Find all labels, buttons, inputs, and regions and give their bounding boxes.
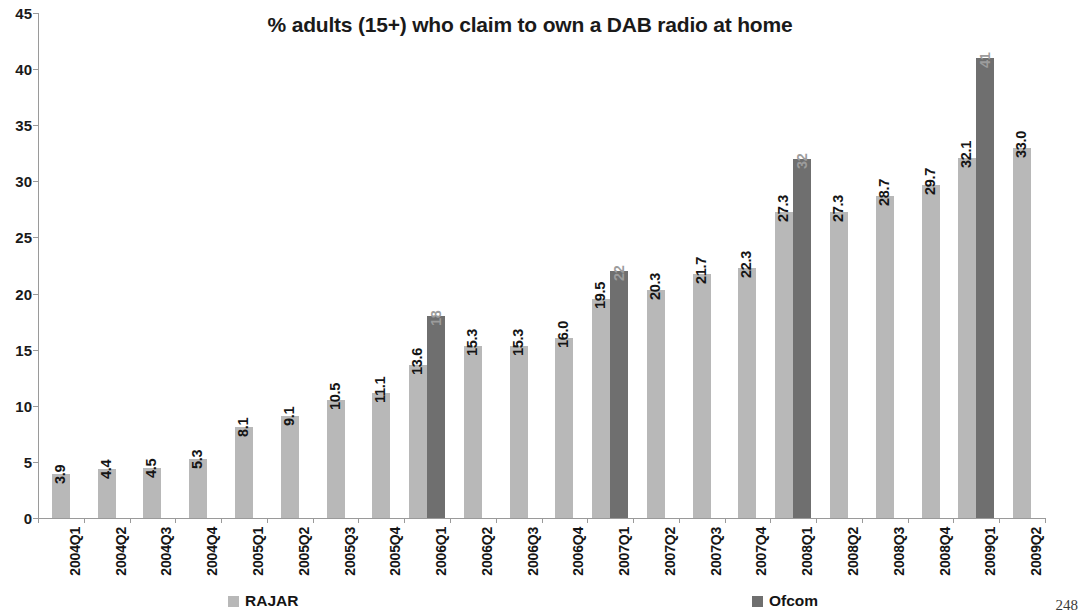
y-axis-tick [33,69,38,70]
y-axis-tick-label: 0 [2,510,32,527]
bar-value-label-rajar: 29.7 [922,168,938,195]
x-axis-category-label: 2006Q4 [570,527,586,576]
x-axis-tick [450,518,451,523]
bar-rajar[interactable] [693,274,711,518]
bar-rajar[interactable] [327,400,345,518]
bar-value-label-rajar: 10.5 [327,383,343,410]
x-axis-tick [1045,518,1046,523]
bar-value-label-rajar: 19.5 [592,282,608,309]
bar-value-label-rajar: 3.9 [52,465,68,484]
legend-swatch-rajar [228,596,239,607]
x-axis-category-label: 2007Q3 [708,527,724,576]
x-axis-tick [358,518,359,523]
x-axis-tick [999,518,1000,523]
x-axis-tick [496,518,497,523]
bar-rajar[interactable] [775,212,793,518]
y-axis-tick [33,462,38,463]
chart-container: % adults (15+) who claim to own a DAB ra… [0,0,1084,616]
x-axis-category-label: 2005Q2 [296,527,312,576]
bar-value-label-rajar: 22.3 [738,251,754,278]
x-axis-category-label: 2006Q2 [479,527,495,576]
bar-rajar[interactable] [876,196,894,518]
bar-value-label-rajar: 5.3 [189,449,205,468]
x-axis-tick [38,518,39,523]
legend-item-rajar[interactable]: RAJAR [228,592,298,610]
x-axis-tick [221,518,222,523]
legend: RAJAR Ofcom [0,592,1060,612]
bar-value-label-rajar: 15.3 [464,329,480,356]
bar-value-label-ofcom: 32 [794,153,810,169]
plot-area: 3.94.44.55.38.19.110.511.113.61815.315.3… [38,13,1045,518]
bar-value-label-rajar: 13.6 [409,348,425,375]
x-axis-tick [175,518,176,523]
y-axis-tick [33,294,38,295]
y-axis-tick-label: 15 [2,341,32,358]
bar-rajar[interactable] [372,393,390,518]
y-axis-tick [33,350,38,351]
bar-rajar[interactable] [409,365,427,518]
legend-label-rajar: RAJAR [245,592,298,610]
x-axis-category-label: 2008Q2 [845,527,861,576]
bar-rajar[interactable] [647,290,665,518]
legend-item-ofcom[interactable]: Ofcom [752,592,818,610]
x-axis-category-label: 2007Q1 [616,527,632,576]
bar-value-label-ofcom: 22 [611,266,627,282]
bar-ofcom[interactable] [976,58,994,518]
x-axis-tick [84,518,85,523]
bar-value-label-rajar: 15.3 [510,329,526,356]
x-axis-category-label: 2007Q4 [753,527,769,576]
x-axis-category-label: 2004Q2 [113,527,129,576]
legend-label-ofcom: Ofcom [769,592,818,610]
bar-ofcom[interactable] [793,159,811,518]
x-axis-category-label: 2006Q1 [433,527,449,576]
x-axis-tick [862,518,863,523]
x-axis-tick [679,518,680,523]
bar-value-label-rajar: 8.1 [235,418,251,437]
y-axis-tick-label: 35 [2,117,32,134]
bar-rajar[interactable] [592,299,610,518]
legend-swatch-ofcom [752,596,763,607]
x-axis-tick [404,518,405,523]
y-axis-tick-label: 30 [2,173,32,190]
x-axis-tick [267,518,268,523]
x-axis-category-label: 2004Q3 [158,527,174,576]
bar-rajar[interactable] [1013,148,1031,518]
page-number: 248 [1056,597,1079,614]
bar-ofcom[interactable] [610,271,628,518]
x-axis-tick [908,518,909,523]
bar-rajar[interactable] [830,212,848,518]
x-axis-tick [633,518,634,523]
x-axis-tick [816,518,817,523]
x-axis-category-label: 2006Q3 [525,527,541,576]
y-axis-tick [33,518,38,519]
bar-ofcom[interactable] [427,316,445,518]
bar-rajar[interactable] [510,346,528,518]
y-axis-tick [33,125,38,126]
bar-value-label-rajar: 20.3 [647,273,663,300]
y-axis-tick-label: 25 [2,229,32,246]
x-axis-tick [542,518,543,523]
bar-rajar[interactable] [958,158,976,518]
bar-rajar[interactable] [555,338,573,518]
x-axis-tick [725,518,726,523]
x-axis-tick [587,518,588,523]
bar-value-label-ofcom: 18 [428,310,444,326]
x-axis-tick [313,518,314,523]
bar-rajar[interactable] [922,185,940,518]
y-axis-tick-label: 40 [2,61,32,78]
x-axis-category-label: 2005Q1 [250,527,266,576]
bar-rajar[interactable] [738,268,756,518]
x-axis-tick [770,518,771,523]
x-axis-category-label: 2007Q2 [662,527,678,576]
bar-rajar[interactable] [464,346,482,518]
y-axis-tick [33,13,38,14]
bar-value-label-rajar: 4.4 [98,459,114,478]
x-axis-category-label: 2005Q3 [342,527,358,576]
bar-rajar[interactable] [281,416,299,518]
bar-rajar[interactable] [235,427,253,518]
bar-value-label-rajar: 4.5 [143,458,159,477]
x-axis-tick [953,518,954,523]
bar-value-label-ofcom: 41 [977,52,993,68]
bar-value-label-rajar: 27.3 [775,195,791,222]
bar-value-label-rajar: 11.1 [372,377,388,403]
